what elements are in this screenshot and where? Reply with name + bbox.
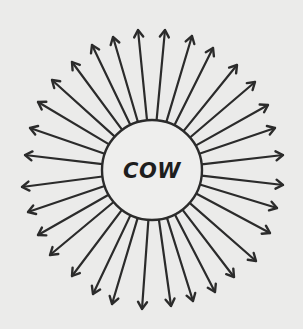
arrow-shaft	[202, 176, 283, 185]
arrow-shaft	[196, 105, 268, 146]
arrow-shaft	[25, 155, 102, 164]
arrow-shaft	[202, 155, 283, 164]
arrow-shaft	[112, 218, 138, 304]
arrow-shaft	[174, 48, 213, 125]
diagram-canvas: COW	[0, 0, 303, 329]
radial-diagram: COW	[0, 0, 303, 329]
arrow-shaft	[92, 45, 130, 125]
arrow-shaft	[167, 218, 193, 301]
arrow-shaft	[166, 36, 192, 122]
arrow-shaft	[30, 128, 105, 154]
arrow-shaft	[159, 220, 171, 307]
arrow-shaft	[196, 194, 270, 234]
arrow-shaft	[138, 30, 147, 120]
arrow-shaft	[157, 30, 165, 120]
center-label: COW	[123, 159, 181, 183]
arrow-shaft	[142, 220, 148, 309]
arrow-shaft	[113, 37, 138, 122]
arrow-shaft	[72, 210, 122, 276]
arrow-shaft	[28, 186, 105, 212]
arrow-shaft	[199, 128, 275, 154]
arrow-shaft	[93, 215, 131, 294]
arrow-shaft	[200, 185, 277, 209]
arrow-shaft	[22, 177, 102, 188]
